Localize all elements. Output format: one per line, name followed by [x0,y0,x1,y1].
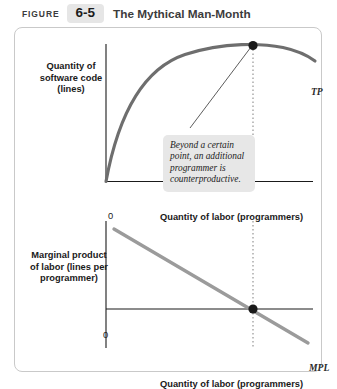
annotation-callout: Beyond a certain point, an additional pr… [163,135,255,192]
bottom-chart-origin-label: 0 [103,330,108,340]
figure-title: The Mythical Man-Month [113,7,251,21]
top-chart-x-axis-label: Quantity of labor (programmers) [160,212,303,222]
bottom-chart-y-axis-label: Marginal product of labor (lines per pro… [27,250,111,285]
figure-word-label: FIGURE [22,9,60,19]
marginal-product-curve [114,229,308,343]
figure-number-badge: 6-5 [67,4,105,23]
top-chart-peak-dot [248,41,257,50]
top-chart-y-axis-label: Quantity of software code (lines) [33,61,109,96]
marginal-product-curve-label: MPL [309,362,329,373]
figure-card: Quantity of software code (lines) 0 Quan… [14,27,322,372]
top-chart-origin-label: 0 [108,211,113,221]
figure-header: FIGURE 6-5 The Mythical Man-Month [0,0,337,27]
bottom-chart-x-axis-label: Quantity of labor (programmers) [160,379,303,389]
bottom-chart-zero-dot [248,304,257,313]
total-product-curve-label: TP [311,86,323,97]
annotation-leader-line [190,47,251,128]
